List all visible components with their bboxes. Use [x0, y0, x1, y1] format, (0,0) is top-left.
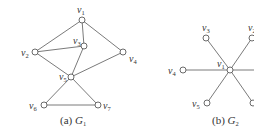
node-v4	[180, 67, 186, 73]
label-v5: v5	[192, 98, 200, 110]
edge-v1-v2	[230, 38, 252, 70]
label-v4: v4	[129, 53, 137, 65]
label-v1: v1	[217, 58, 225, 70]
node-v4	[120, 49, 126, 55]
g2-nodes	[180, 35, 254, 106]
node-v7	[95, 102, 101, 108]
node-v3	[203, 35, 209, 41]
label-v1: v1	[77, 4, 85, 16]
edge-v3-v5	[71, 46, 84, 77]
caption-g1: (a) G1	[60, 114, 86, 127]
g1-edges	[35, 20, 123, 105]
edge-v2-v5	[35, 52, 71, 77]
edge-v5-v6	[44, 77, 71, 105]
graph-g1: v1 v2 v3 v4 v5 v6 v7 (a) G1	[21, 4, 137, 127]
label-v7: v7	[103, 100, 111, 112]
node-v5	[204, 100, 210, 106]
g2-edges	[183, 38, 254, 103]
node-v6	[250, 100, 254, 106]
label-v4: v4	[168, 65, 176, 77]
caption-g2: (b) G2	[212, 114, 239, 127]
label-v3: v3	[73, 35, 81, 47]
label-v6: v6	[29, 100, 37, 112]
node-v3	[81, 43, 87, 49]
g1-nodes	[32, 17, 126, 108]
node-v5	[68, 74, 74, 80]
label-v2: v2	[21, 47, 29, 59]
edge-v1-v5	[207, 70, 230, 103]
edge-v5-v4	[71, 52, 123, 77]
node-v2	[249, 35, 254, 41]
node-v1	[79, 17, 85, 23]
node-v1	[227, 67, 233, 73]
edge-v5-v7	[71, 77, 98, 105]
edge-v1-v3	[82, 20, 84, 46]
graph-g2: v1 v3 v2 v4 v5 (b) G2	[168, 22, 254, 127]
edge-v1-v6	[230, 70, 253, 103]
node-v6	[41, 102, 47, 108]
graph-figure: v1 v2 v3 v4 v5 v6 v7 (a) G1 v1	[0, 0, 254, 131]
label-v2: v2	[248, 22, 254, 34]
label-v3: v3	[202, 22, 210, 34]
edge-v1-v4	[82, 20, 123, 52]
node-v2	[32, 49, 38, 55]
